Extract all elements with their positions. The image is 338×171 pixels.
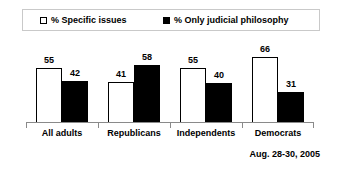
bar-wrap-all-adults-specific: 55 — [36, 44, 62, 123]
bar-value-all-adults-specific: 55 — [44, 56, 54, 65]
bar-wrap-independents-philosophy: 40 — [206, 44, 232, 123]
x-axis-tick-3 — [242, 123, 243, 128]
bar-republicans-philosophy — [134, 65, 160, 123]
chart-legend: % Specific issues % Only judicial philos… — [22, 9, 320, 31]
bar-republicans-specific — [108, 82, 134, 123]
x-axis-tick-2 — [170, 123, 171, 128]
bar-value-all-adults-philosophy: 42 — [70, 69, 80, 78]
bar-independents-specific — [180, 68, 206, 123]
legend-swatch-hollow-icon — [40, 17, 47, 24]
x-axis-label-republicans: Republicans — [98, 129, 170, 138]
bar-all-adults-philosophy — [62, 81, 88, 123]
bar-chart: % Specific issues % Only judicial philos… — [0, 0, 338, 171]
bar-group-all-adults: 55 42 — [30, 44, 94, 123]
bar-value-independents-specific: 55 — [188, 56, 198, 65]
x-axis-label-all-adults: All adults — [26, 129, 98, 138]
bar-wrap-republicans-specific: 41 — [108, 44, 134, 123]
legend-entry-specific-issues: % Specific issues — [40, 16, 127, 25]
legend-label-specific-issues: % Specific issues — [51, 16, 127, 25]
bar-democrats-specific — [252, 57, 278, 123]
bar-value-democrats-philosophy: 31 — [286, 80, 296, 89]
bar-wrap-republicans-philosophy: 58 — [134, 44, 160, 123]
legend-swatch-solid-icon — [163, 17, 170, 24]
bar-group-republicans: 41 58 — [102, 44, 166, 123]
bar-all-adults-specific — [36, 68, 62, 123]
bar-wrap-democrats-specific: 66 — [252, 44, 278, 123]
chart-date-note: Aug. 28-30, 2005 — [249, 150, 320, 159]
bar-independents-philosophy — [206, 83, 232, 123]
bar-group-independents: 55 40 — [174, 44, 238, 123]
bar-wrap-all-adults-philosophy: 42 — [62, 44, 88, 123]
x-axis-tick-1 — [98, 123, 99, 128]
bar-democrats-philosophy — [278, 92, 304, 123]
bar-value-independents-philosophy: 40 — [214, 71, 224, 80]
x-axis-label-democrats: Democrats — [242, 129, 314, 138]
bar-value-republicans-specific: 41 — [116, 70, 126, 79]
legend-label-judicial-philosophy: % Only judicial philosophy — [174, 16, 289, 25]
x-axis-tick-start — [26, 123, 27, 128]
bar-value-democrats-specific: 66 — [260, 45, 270, 54]
bar-wrap-democrats-philosophy: 31 — [278, 44, 304, 123]
legend-entry-judicial-philosophy: % Only judicial philosophy — [163, 16, 289, 25]
bar-wrap-independents-specific: 55 — [180, 44, 206, 123]
x-axis-tick-end — [313, 123, 314, 128]
bar-group-democrats: 66 31 — [246, 44, 310, 123]
plot-area: 55 42 41 58 55 — [26, 44, 312, 123]
x-axis-label-independents: Independents — [170, 129, 242, 138]
bar-value-republicans-philosophy: 58 — [142, 53, 152, 62]
